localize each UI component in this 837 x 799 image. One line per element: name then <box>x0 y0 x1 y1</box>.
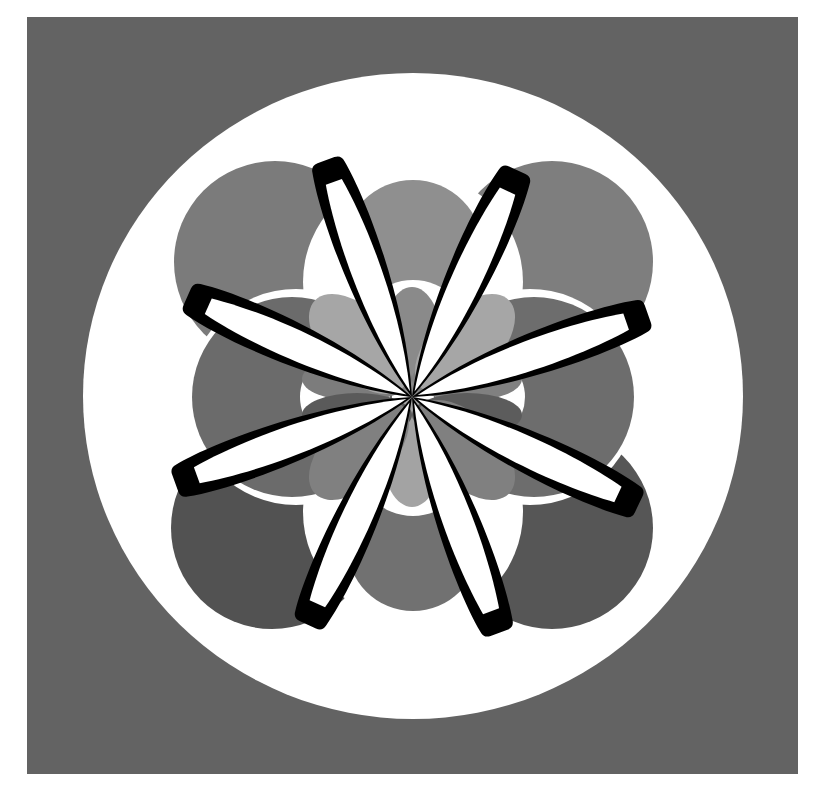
artwork-canvas <box>0 0 837 799</box>
